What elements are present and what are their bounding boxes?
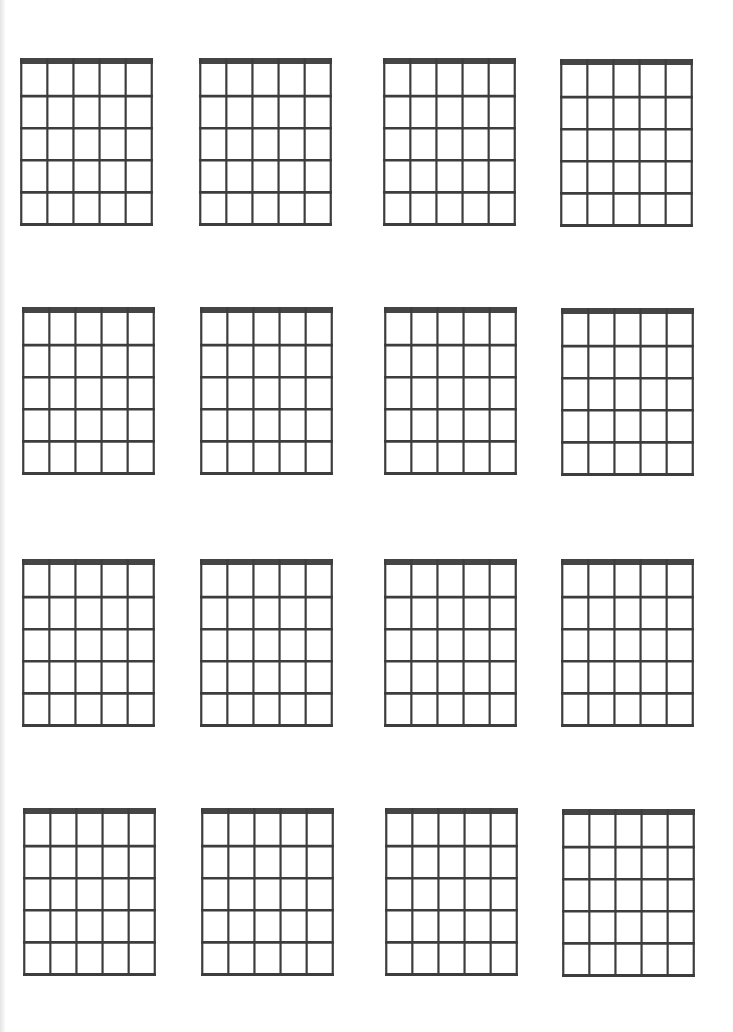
- strings: [385, 307, 516, 475]
- frets: [383, 96, 516, 224]
- nut-bar: [201, 808, 334, 814]
- frets: [20, 96, 153, 224]
- fretboard-grid: [20, 58, 153, 226]
- frets: [200, 345, 333, 473]
- chord-diagram-r3-c2: [200, 559, 333, 727]
- frets: [199, 96, 332, 224]
- frets: [22, 597, 155, 725]
- nut-bar: [560, 59, 693, 65]
- frets: [23, 846, 156, 974]
- chord-diagram-r2-c1: [22, 307, 155, 475]
- nut-bar: [561, 559, 694, 565]
- fretboard-grid: [384, 307, 517, 475]
- strings: [562, 308, 693, 476]
- strings: [384, 58, 515, 226]
- chord-diagram-r1-c3: [383, 58, 516, 226]
- strings: [386, 808, 517, 976]
- frets: [561, 597, 694, 725]
- fretboard-grid: [562, 809, 695, 977]
- chord-diagram-r3-c1: [22, 559, 155, 727]
- nut-bar: [562, 809, 695, 815]
- nut-bar: [384, 559, 517, 565]
- strings: [563, 809, 694, 977]
- fretboard-grid: [561, 559, 694, 727]
- strings: [23, 307, 154, 475]
- nut-bar: [385, 808, 518, 814]
- chord-diagram-r1-c4: [560, 59, 693, 227]
- strings: [202, 808, 333, 976]
- strings: [201, 307, 332, 475]
- fretboard-grid: [200, 559, 333, 727]
- nut-bar: [384, 307, 517, 313]
- chord-diagram-r3-c4: [561, 559, 694, 727]
- nut-bar: [22, 307, 155, 313]
- nut-bar: [200, 559, 333, 565]
- frets: [22, 345, 155, 473]
- strings: [385, 559, 516, 727]
- fretboard-grid: [560, 59, 693, 227]
- strings: [201, 559, 332, 727]
- strings: [561, 59, 692, 227]
- chord-diagram-r4-c1: [23, 808, 156, 976]
- fretboard-grid: [200, 307, 333, 475]
- chord-diagram-r2-c4: [561, 308, 694, 476]
- strings: [24, 808, 155, 976]
- fretboard-grid: [23, 808, 156, 976]
- frets: [384, 345, 517, 473]
- nut-bar: [199, 58, 332, 64]
- chord-diagram-r1-c1: [20, 58, 153, 226]
- strings: [21, 58, 152, 226]
- nut-bar: [383, 58, 516, 64]
- nut-bar: [200, 307, 333, 313]
- fretboard-grid: [384, 559, 517, 727]
- fretboard-grid: [201, 808, 334, 976]
- nut-bar: [22, 559, 155, 565]
- fretboard-grid: [561, 308, 694, 476]
- chord-diagram-r1-c2: [199, 58, 332, 226]
- strings: [200, 58, 331, 226]
- chord-diagram-r4-c3: [385, 808, 518, 976]
- chord-diagram-r2-c3: [384, 307, 517, 475]
- chord-diagram-r4-c4: [562, 809, 695, 977]
- frets: [384, 597, 517, 725]
- fretboard-grid: [383, 58, 516, 226]
- fretboard-grid: [385, 808, 518, 976]
- chord-diagram-r2-c2: [200, 307, 333, 475]
- nut-bar: [23, 808, 156, 814]
- frets: [562, 847, 695, 975]
- strings: [23, 559, 154, 727]
- frets: [560, 97, 693, 225]
- frets: [200, 597, 333, 725]
- chord-diagram-r4-c2: [201, 808, 334, 976]
- fretboard-grid: [199, 58, 332, 226]
- frets: [561, 346, 694, 474]
- nut-bar: [20, 58, 153, 64]
- fretboard-grid: [22, 307, 155, 475]
- page-edge-shadow: [0, 0, 6, 1032]
- chord-diagram-r3-c3: [384, 559, 517, 727]
- frets: [385, 846, 518, 974]
- strings: [562, 559, 693, 727]
- nut-bar: [561, 308, 694, 314]
- frets: [201, 846, 334, 974]
- fretboard-grid: [22, 559, 155, 727]
